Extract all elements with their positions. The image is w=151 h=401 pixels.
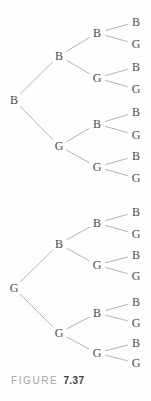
tree-node-label-tree-top-ggg: G bbox=[132, 171, 141, 185]
tree-node-label-tree-top-bb: B bbox=[93, 26, 101, 40]
tree-edge-tree-top-b bbox=[20, 62, 52, 93]
tree-node-label-tree-bottom-bgb: B bbox=[132, 248, 140, 262]
tree-node-label-tree-bottom-bgg: G bbox=[132, 269, 141, 283]
tree-edge-tree-bottom-ggg bbox=[106, 355, 128, 361]
figure-caption: FIGURE7.37 bbox=[11, 375, 84, 387]
tree-edge-tree-top-gg bbox=[67, 150, 89, 162]
tree-node-label-tree-top-gbb: B bbox=[132, 105, 140, 119]
tree-edge-tree-top-gbg bbox=[106, 126, 128, 132]
tree-edge-tree-top-ggb bbox=[106, 158, 128, 164]
tree-edge-tree-bottom-b bbox=[20, 250, 52, 281]
tree-edge-tree-top-g bbox=[20, 106, 52, 139]
tree-edge-tree-bottom-bbb bbox=[106, 214, 128, 220]
tree-edge-tree-top-bb bbox=[67, 38, 90, 52]
tree-edge-tree-top-bgg bbox=[106, 80, 128, 86]
tree-node-label-tree-top-ggb: B bbox=[132, 149, 140, 163]
tree-node-label-tree-bottom-root: G bbox=[10, 281, 19, 295]
tree-node-label-tree-bottom-bbb: B bbox=[132, 205, 140, 219]
tree-edge-tree-top-gb bbox=[67, 129, 89, 142]
tree-node-label-tree-top-gg: G bbox=[93, 160, 102, 174]
tree-node-label-tree-bottom-gbb: B bbox=[132, 295, 140, 309]
tree-node-label-tree-top-bg: G bbox=[93, 71, 102, 85]
figure-7-37: BBGBGBGBGBGBGBGGBGBGBGBGBGBGBG FIGURE7.3… bbox=[0, 0, 151, 401]
tree-edge-tree-bottom-gbg bbox=[106, 315, 128, 321]
tree-edge-tree-bottom-gbb bbox=[106, 304, 128, 310]
tree-edge-tree-bottom-bg bbox=[67, 248, 89, 260]
tree-edge-tree-bottom-gb bbox=[67, 317, 89, 329]
tree-node-label-tree-top-bbb: B bbox=[132, 15, 140, 29]
tree-top: BBGBGBGBGBGBGBG bbox=[10, 15, 141, 185]
tree-node-label-tree-bottom-bb: B bbox=[93, 216, 101, 230]
tree-edge-tree-bottom-ggb bbox=[106, 345, 128, 351]
tree-edge-tree-top-gbb bbox=[106, 115, 128, 122]
tree-node-label-tree-bottom-bbg: G bbox=[132, 227, 141, 241]
tree-figure-svg: BBGBGBGBGBGBGBGGBGBGBGBGBGBGBG bbox=[0, 0, 151, 401]
tree-node-label-tree-bottom-bg: G bbox=[93, 258, 102, 272]
tree-edge-tree-bottom-bb bbox=[67, 227, 89, 239]
tree-node-label-tree-bottom-ggg: G bbox=[132, 356, 141, 370]
tree-edge-tree-top-bbb bbox=[106, 24, 128, 30]
tree-node-label-tree-top-bgg: G bbox=[132, 82, 141, 96]
tree-edge-tree-top-bgb bbox=[106, 69, 128, 75]
tree-edge-tree-bottom-bbg bbox=[106, 225, 128, 231]
tree-edge-tree-bottom-g bbox=[20, 294, 52, 326]
tree-node-label-tree-bottom-gbg: G bbox=[132, 316, 141, 330]
tree-node-label-tree-top-g: G bbox=[55, 139, 64, 153]
tree-edge-tree-bottom-bgg bbox=[106, 267, 128, 273]
tree-node-label-tree-top-root: B bbox=[10, 93, 18, 107]
tree-edge-tree-bottom-bgb bbox=[106, 257, 128, 263]
tree-node-label-tree-top-gbg: G bbox=[132, 128, 141, 142]
tree-edge-tree-top-bg bbox=[67, 61, 89, 74]
tree-node-label-tree-top-gb: B bbox=[93, 117, 101, 131]
tree-edge-tree-bottom-gg bbox=[67, 337, 89, 349]
tree-node-label-tree-top-bbg: G bbox=[132, 37, 141, 51]
tree-edge-tree-top-bbg bbox=[106, 35, 128, 41]
tree-edge-tree-top-ggg bbox=[106, 169, 128, 175]
figure-caption-number: 7.37 bbox=[63, 375, 84, 386]
tree-node-label-tree-bottom-g: G bbox=[55, 326, 64, 340]
tree-node-label-tree-top-b: B bbox=[55, 49, 63, 63]
figure-caption-prefix: FIGURE bbox=[11, 375, 58, 386]
tree-node-label-tree-bottom-ggb: B bbox=[132, 336, 140, 350]
tree-node-label-tree-bottom-gb: B bbox=[93, 306, 101, 320]
tree-node-label-tree-bottom-b: B bbox=[55, 237, 63, 251]
tree-node-label-tree-top-bgb: B bbox=[132, 60, 140, 74]
tree-node-label-tree-bottom-gg: G bbox=[93, 346, 102, 360]
tree-bottom: GBGBGBGBGBGBGBG bbox=[10, 205, 141, 370]
